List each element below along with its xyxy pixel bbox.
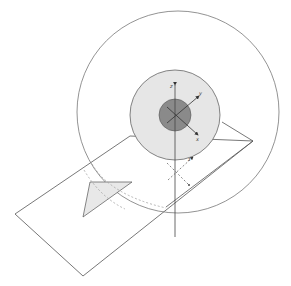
geometry-diagram: z y x z bbox=[0, 0, 291, 286]
diagram-canvas: z y x z bbox=[0, 0, 291, 286]
plane bbox=[15, 136, 253, 276]
label-z-bottom: z bbox=[187, 156, 191, 162]
axis-dashed-b-end bbox=[188, 184, 190, 186]
label-x-top: x bbox=[195, 136, 199, 142]
label-z-top: z bbox=[169, 83, 173, 89]
